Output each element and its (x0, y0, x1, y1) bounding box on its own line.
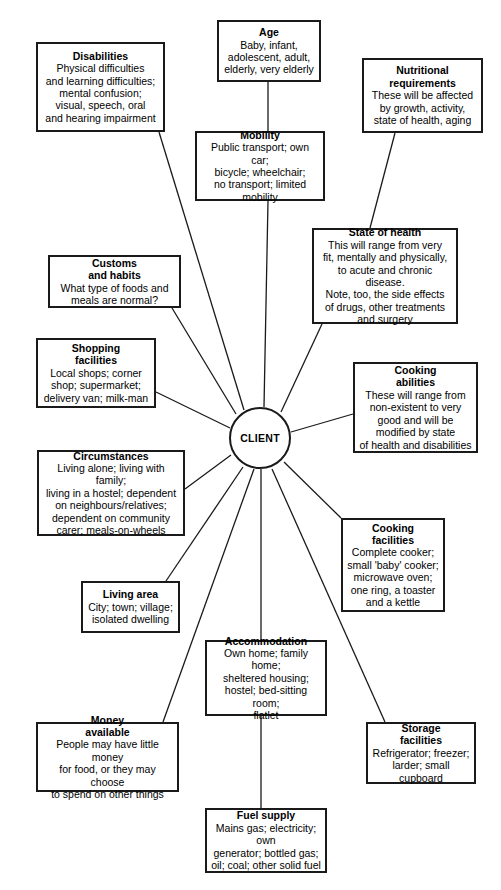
node-customs-and-habits-title: Customs and habits (88, 257, 141, 282)
node-nutritional-requirements: Nutritional requirements These will be a… (362, 58, 483, 133)
node-living-area-body: City; town; village; isolated dwelling (88, 601, 173, 626)
node-money-available-body: People may have little money for food, o… (42, 738, 173, 800)
node-cooking-facilities: Cooking facilities Complete cooker; smal… (341, 518, 445, 612)
node-nutritional-requirements-body: These will be affected by growth, activi… (372, 89, 473, 126)
node-shopping-facilities-body: Local shops; corner shop; supermarket; d… (44, 367, 148, 404)
node-age-body: Baby, infant, adolescent, adult, elderly… (224, 39, 314, 76)
node-accommodation-body: Own home; family home; sheltered housing… (211, 647, 321, 721)
node-age: Age Baby, infant, adolescent, adult, eld… (217, 20, 321, 82)
node-money-available-title: Money available (85, 714, 129, 739)
node-disabilities-title: Disabilities (73, 50, 128, 62)
node-storage-facilities-title: Storage facilities (400, 722, 442, 747)
connector-cooking-abilities-to-hub (291, 414, 353, 432)
node-disabilities-body: Physical difficulties and learning diffi… (45, 62, 155, 124)
node-state-of-health-title: State of health (349, 226, 421, 238)
node-accommodation: Accommodation Own home; family home; she… (205, 640, 327, 716)
node-fuel-supply-title: Fuel supply (237, 809, 295, 821)
node-customs-and-habits-body: What type of foods and meals are normal? (61, 282, 169, 307)
node-disabilities: Disabilities Physical difficulties and l… (36, 42, 165, 132)
node-circumstances: Circumstances Living alone; living with … (37, 450, 185, 536)
connector-customs-and-habits-to-hub (172, 308, 236, 414)
node-state-of-health: State of health This will range from ver… (312, 228, 458, 324)
node-accommodation-title: Accommodation (225, 635, 307, 647)
node-storage-facilities-body: Refrigerator; freezer; larder; small cup… (372, 747, 470, 784)
node-customs-and-habits: Customs and habits What type of foods an… (48, 255, 181, 308)
node-mobility-title: Mobility (240, 129, 280, 141)
node-shopping-facilities: Shopping facilities Local shops; corner … (36, 338, 156, 408)
connector-cooking-facilities-to-hub (284, 462, 341, 518)
node-fuel-supply-body: Mains gas; electricity; own generator; b… (211, 822, 321, 872)
connector-shopping-facilities-to-hub (156, 392, 230, 428)
connector-mobility-to-hub (264, 201, 268, 407)
node-fuel-supply: Fuel supply Mains gas; electricity; own … (205, 808, 327, 873)
connector-state-of-health-to-hub (281, 324, 322, 412)
node-mobility: Mobility Public transport; own car; bicy… (195, 131, 325, 201)
hub-client: CLIENT (229, 407, 291, 469)
node-circumstances-body: Living alone; living with family; living… (43, 462, 179, 536)
node-state-of-health-body: This will range from very fit, mentally … (318, 239, 452, 326)
node-money-available: Money available People may have little m… (36, 722, 179, 792)
node-living-area: Living area City; town; village; isolate… (81, 581, 180, 633)
connector-circumstances-to-hub (185, 455, 231, 489)
node-living-area-title: Living area (103, 588, 158, 600)
node-cooking-abilities-body: These will range from non-existent to ve… (359, 389, 471, 451)
node-nutritional-requirements-title: Nutritional requirements (389, 64, 456, 89)
node-age-title: Age (259, 26, 279, 38)
node-cooking-facilities-title: Cooking facilities (372, 522, 414, 547)
client-factors-spider-diagram: CLIENT Age Baby, infant, adolescent, adu… (0, 0, 501, 890)
node-cooking-facilities-body: Complete cooker; small 'baby' cooker; mi… (347, 546, 439, 608)
node-shopping-facilities-title: Shopping facilities (72, 342, 120, 367)
node-cooking-abilities: Cooking abilities These will range from … (353, 362, 478, 453)
node-mobility-body: Public transport; own car; bicycle; whee… (201, 141, 319, 203)
node-cooking-abilities-title: Cooking abilities (395, 364, 437, 389)
node-storage-facilities: Storage facilities Refrigerator; freezer… (366, 722, 476, 784)
node-circumstances-title: Circumstances (73, 450, 148, 462)
connector-nutritional-requirements-to-state-of-health (370, 133, 395, 228)
hub-label: CLIENT (240, 432, 280, 444)
